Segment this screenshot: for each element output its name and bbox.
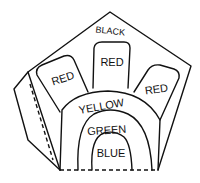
label-red-right: RED [144, 81, 169, 96]
label-blue: BLUE [97, 147, 126, 159]
label-red-center: RED [100, 56, 123, 68]
label-black: BLACK [95, 25, 125, 38]
green-arch [78, 110, 152, 170]
label-yellow: YELLOW [78, 96, 126, 116]
diagram-canvas: BLACK RED RED RED YELLOW GREEN BLUE [0, 0, 200, 183]
pentagon-diagram: BLACK RED RED RED YELLOW GREEN BLUE [0, 0, 200, 183]
label-red-left: RED [50, 69, 76, 88]
